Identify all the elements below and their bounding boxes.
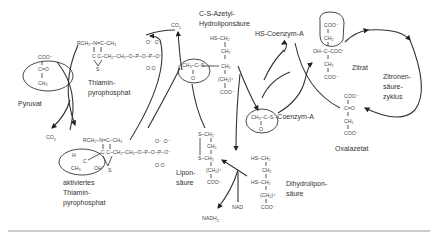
arc-to-nadh2 xyxy=(218,170,238,208)
atpp-highlight-ring xyxy=(59,149,105,175)
arc-acoa-to-zitrat xyxy=(278,63,312,113)
thiamin-label-2: Thiamin- xyxy=(63,189,91,196)
tpp-top: RCH₂–N=C–CH₃ xyxy=(77,40,116,46)
atpp-o: O O xyxy=(155,162,165,168)
zyklus-label-3: zyklus xyxy=(383,93,403,101)
lipon-label-1: Lipon- xyxy=(176,169,196,177)
dhl-hs1: HS–CH₂ xyxy=(251,155,271,161)
hs-coenzym-a-label: HS-Coenzym-A xyxy=(255,30,304,38)
oxa-coo1: COO⁻ xyxy=(344,93,359,99)
pyruvat-coo: COO⁻ xyxy=(38,54,53,60)
arc-cycle-top xyxy=(368,30,410,40)
zitrat-coo1: COO⁻ xyxy=(324,22,339,28)
zitrat-molecule: COO⁻ CH₂ OH–C–COO⁻ CH₂ COO⁻ Zitrat xyxy=(313,12,368,80)
lipon-coo: COO⁻ xyxy=(207,179,222,185)
arc-to-co2-left xyxy=(52,100,70,128)
pyrophosphat-label-2: pyrophosphat xyxy=(63,199,105,207)
acetyl-hydrolipon-label-2: Hydroliponsäure xyxy=(199,20,250,28)
arc-zitrat-to-cycle xyxy=(345,30,368,42)
zitrat-mid: OH–C–COO⁻ xyxy=(313,48,345,54)
arc-acetyl-to-lipon xyxy=(192,84,205,128)
lipon-ch2: CH₂ xyxy=(207,143,217,149)
arc-co2-release xyxy=(146,30,175,35)
acetyl-ch2n: (CH₂)⁴ xyxy=(218,76,233,82)
dhl-ch2n: (CH₂)⁴ xyxy=(260,192,275,198)
oxa-co: C=O xyxy=(344,105,355,111)
zyklus-label-2: säure- xyxy=(383,83,404,90)
atpp-c: C xyxy=(83,158,87,164)
arc-atpp-to-acetyl xyxy=(130,36,162,140)
thiamin-pyrophosphat-molecule: RCH₂–N=C–CH₃ O⁻ O⁻ C C–CH₂–CH₂–O–P–O–P–O… xyxy=(77,39,162,97)
zitrat-label: Zitrat xyxy=(352,64,368,71)
tpp-s: S xyxy=(96,66,100,72)
liponsaeure-molecule: S–CH₂ CH₂ S–CH₂ (CH₂)⁴ COO⁻ Lipon- säure xyxy=(176,131,222,186)
oxalazetat-label: Oxalazetat xyxy=(335,145,369,152)
thiamin-label: Thiamin- xyxy=(88,79,116,86)
pyrophosphat-label: pyrophosphat xyxy=(88,89,130,97)
nad-label: NAD xyxy=(232,204,243,210)
zyklus-label-1: Zitronen- xyxy=(383,73,412,80)
oxa-ch2: CH₂ xyxy=(344,118,354,124)
zitrat-ch2b: CH₂ xyxy=(324,61,334,67)
dhl-hs2: HS–CH₂ xyxy=(251,179,271,185)
arc-acetyl-to-acoa xyxy=(238,66,258,110)
tpp-o-minus: O⁻ O⁻ xyxy=(146,39,162,45)
atpp-h: H xyxy=(72,152,76,158)
lipon-ch2n: (CH₂)⁴ xyxy=(206,167,221,173)
acoa-o: O xyxy=(259,126,263,132)
acetyl-coenzym-a-molecule: CH₃–C–S -Coenzym-A O xyxy=(246,109,314,133)
activated-thiamin-pyrophosphat-molecule: CO2 RCH₂–N=C–CH₃ O⁻ O⁻ H C CH₃ OH C C–CH… xyxy=(46,134,171,207)
dhl-coo: COO⁻ xyxy=(261,204,276,210)
dihydroliponsaeure-molecule: HS–CH₂ CH₂ HS–CH₂ (CH₂)⁴ COO⁻ Dihydrolip… xyxy=(251,155,328,210)
co2-left-text: CO2 xyxy=(46,134,57,142)
zitrat-coo2: COO⁻ xyxy=(324,74,339,80)
atpp-s: S xyxy=(108,167,112,173)
atpp-ch3: CH₃ xyxy=(71,165,81,171)
acetyl-o: O xyxy=(191,75,195,81)
acetyl-hs-ch2: HS–CH₂ xyxy=(210,35,230,41)
dihydrolipon-label-2: säure xyxy=(286,190,304,197)
citric-acid-cycle-label: Zitronen- säure- zyklus xyxy=(383,73,412,101)
arc-co2-top xyxy=(178,32,182,70)
acoa-group: CH₃–C–S xyxy=(251,114,274,120)
dhl-ch2: CH₂ xyxy=(262,167,272,173)
atpp-oh: OH xyxy=(94,165,102,171)
lipon-s1: S–CH₂ xyxy=(198,131,214,137)
co2-top: CO2 xyxy=(171,22,182,30)
aktiviertes-label: aktiviertes xyxy=(63,179,95,186)
dihydrolipon-label-1: Dihydrolipon- xyxy=(286,180,328,188)
acetyl-ch2-a: CH₂ xyxy=(221,48,231,54)
oxalazetat-molecule: COO⁻ C=O CH₂ COO⁻ Oxalazetat xyxy=(335,93,369,152)
atpp-o-minus: O⁻ O⁻ xyxy=(155,138,171,144)
arc-left-down xyxy=(148,68,180,128)
co2-top-text: CO2 xyxy=(171,22,182,30)
acetyl-group: CH₃–C–S xyxy=(182,62,205,68)
acetyl-coa-label: -Coenzym-A xyxy=(275,113,314,121)
pyruvat-ch3: CH₃ xyxy=(38,80,48,86)
lipon-s2: S–CH₂ xyxy=(198,155,214,161)
zitrat-highlight-ring xyxy=(320,12,344,46)
tpp-o: O O xyxy=(146,65,156,71)
nadh2-label: NADH2 xyxy=(202,215,220,223)
tpp-chain: C C–CH₂–CH₂–O–P–O–P–O⁻ xyxy=(92,53,162,59)
acetyl-hydrolipon-label-1: C-S-Azetyl- xyxy=(199,10,235,18)
pyruvat-label: Pyruvat xyxy=(18,100,42,108)
atpp-chain: C C–CH₂–CH₂–O–P–O–P–O⁻ xyxy=(101,149,171,155)
oxa-coo2: COO⁻ xyxy=(344,130,359,136)
acetyl-ch2-b: CH₂ xyxy=(221,63,231,69)
arc-to-dihydrolipon xyxy=(236,74,240,150)
arc-dhl-to-lipon xyxy=(222,160,247,176)
zitrat-ch2a: CH₂ xyxy=(324,35,334,41)
pyruvate-dehydrogenase-diagram: COO⁻ C=O CH₃ Pyruvat RCH₂–N=C–CH₃ O⁻ O⁻ … xyxy=(0,0,435,239)
pyruvat-co: C=O xyxy=(38,66,49,72)
atpp-top: RCH₂–N=C–CH₃ xyxy=(83,137,122,143)
pyruvat-molecule: COO⁻ C=O CH₃ Pyruvat xyxy=(18,54,73,108)
arc-hscoa-left xyxy=(264,50,284,80)
acetyl-coo: COO⁻ xyxy=(220,89,235,95)
lipon-label-2: säure xyxy=(176,179,194,186)
